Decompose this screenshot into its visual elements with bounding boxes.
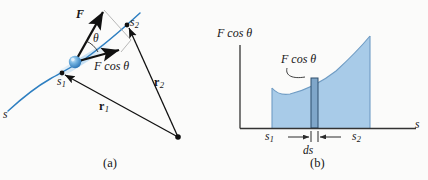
label-y-axis: F cos θ (217, 27, 252, 39)
label-tick-s1: s1 (265, 131, 274, 145)
label-curve-callout-text: F cos θ (281, 52, 316, 66)
label-tick-s1-subscript: 1 (270, 135, 274, 144)
particle-marker (69, 56, 81, 68)
point-s2-dot (125, 23, 130, 28)
label-tick-s2-subscript: 2 (357, 135, 361, 144)
label-point-s1-subscript: 1 (62, 80, 66, 89)
label-x-axis: s (415, 119, 419, 131)
label-point-s1-base: s (57, 75, 61, 87)
particle-highlight (71, 58, 75, 62)
area-under-curve (272, 36, 370, 128)
differential-strip-ds (311, 78, 318, 128)
figure-vector-graphics (0, 0, 428, 180)
label-point-s2-subscript: 2 (135, 21, 139, 30)
label-y-axis-text: F cos θ (217, 26, 252, 40)
label-curve-callout: F cos θ (281, 53, 316, 65)
label-point-s2-base: s (130, 16, 134, 28)
label-ds: ds (303, 145, 313, 157)
caption-panel-a: (a) (103, 157, 117, 170)
label-point-s1: s1 (57, 76, 66, 90)
label-position-vector-r1: r1 (99, 100, 109, 114)
force-construction-line-2 (121, 40, 131, 52)
caption-panel-b: (b) (310, 157, 325, 170)
label-angle-theta: θ (93, 33, 99, 45)
label-tick-s2-base: s (352, 130, 356, 142)
label-force-F: F (76, 8, 84, 20)
physics-figure: F θ F cos θ s2 s1 s r1 r2 (a) F cos θ F … (0, 0, 428, 180)
label-point-s2: s2 (130, 17, 139, 31)
callout-leader-line (287, 68, 305, 78)
label-path-s: s (3, 109, 7, 121)
label-r2-base: r (154, 75, 159, 89)
label-r1-base: r (99, 99, 104, 113)
label-tick-s1-base: s (265, 130, 269, 142)
panel-b-graphics (240, 36, 416, 142)
label-r2-subscript: 2 (160, 80, 164, 90)
label-position-vector-r2: r2 (154, 76, 164, 90)
label-tangential-force-text: F cos θ (94, 59, 129, 73)
label-r1-subscript: 1 (105, 104, 109, 114)
label-tick-s2: s2 (352, 131, 361, 145)
label-tangential-force: F cos θ (94, 60, 129, 72)
